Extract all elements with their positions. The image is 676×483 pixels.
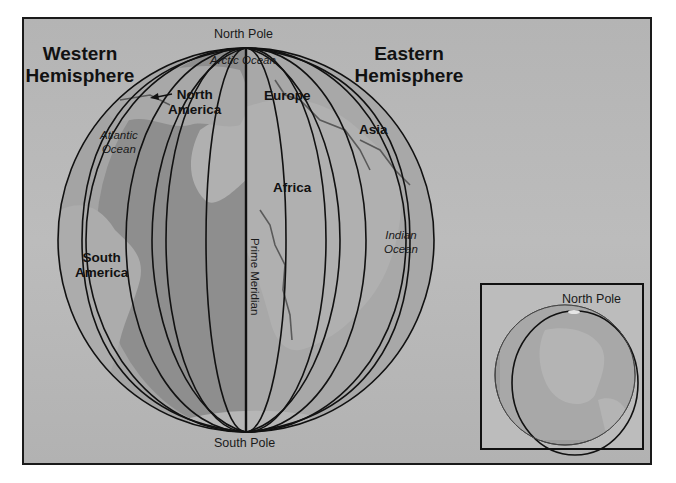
prime-meridian-label: Prime Meridian [249,238,261,315]
atlantic-ocean-label: Atlantic Ocean [100,128,138,156]
inset-north-pole-label: North Pole [562,292,621,306]
europe-label: Europe [264,88,311,103]
north-pole-label: North Pole [214,27,273,41]
asia-label: Asia [359,122,388,137]
north-america-label: North America [168,87,221,117]
eastern-hemisphere-title: Eastern Hemisphere [354,43,464,87]
western-hemisphere-title: Western Hemisphere [18,43,142,87]
africa-label: Africa [273,180,311,195]
indian-ocean-label: Indian Ocean [384,228,418,256]
arctic-ocean-label: Arctic Ocean [210,53,276,67]
south-america-label: South America [75,250,128,280]
south-pole-label: South Pole [214,436,275,450]
